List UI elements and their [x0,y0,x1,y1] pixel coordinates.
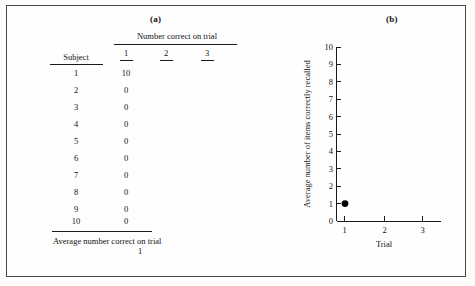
cell-trial-1: 0 [110,170,142,180]
cell-subject: 7 [52,170,100,180]
panel-a-table: (a) Number correct on trial Subject 1 2 … [0,0,290,272]
column-header-trial-3-rule [201,60,214,61]
cell-subject: 5 [52,136,100,146]
cell-trial-1: 0 [110,119,142,129]
cell-trial-1: 0 [110,85,142,95]
column-header-trial-2: 2 [150,48,182,58]
figure-root: (a) Number correct on trial Subject 1 2 … [0,0,475,286]
cell-trial-1: 0 [110,153,142,163]
cell-subject: 2 [52,85,100,95]
table-footer-label: Average number correct on trial [53,236,173,246]
cell-subject: 10 [52,216,100,226]
cell-trial-1: 10 [110,68,142,78]
table-span-rule [114,44,237,45]
column-header-trial-1-rule [120,60,133,61]
cell-subject: 4 [52,119,100,129]
cell-trial-1: 0 [110,204,142,214]
table-span-header: Number correct on trial [118,31,236,41]
cell-subject: 9 [52,204,100,214]
cell-subject: 3 [52,102,100,112]
column-header-subject: Subject [52,52,100,62]
cell-trial-1: 0 [110,136,142,146]
cell-trial-1: 0 [110,216,142,226]
cell-subject: 8 [52,187,100,197]
cell-subject: 6 [52,153,100,163]
column-header-trial-2-rule [160,60,173,61]
column-header-trial-1: 1 [110,48,142,58]
table-footer-value-trial-1: 1 [138,246,142,256]
column-header-subject-rule [50,64,103,65]
cell-trial-1: 0 [110,102,142,112]
panel-a-label: (a) [150,14,161,24]
table-footer-rule [52,231,152,232]
cell-trial-1: 0 [110,187,142,197]
cell-subject: 1 [52,68,100,78]
column-header-trial-3: 3 [191,48,223,58]
